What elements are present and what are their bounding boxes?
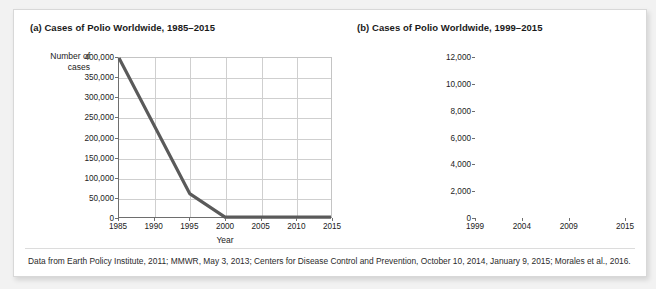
x-tick-mark — [261, 218, 262, 221]
panel-a-y-axis-title-line2: cases — [68, 62, 90, 72]
y-tick-mark — [115, 158, 118, 159]
x-tick-label: 2010 — [287, 222, 305, 231]
y-tick-label: 0 — [411, 214, 471, 223]
x-tick-mark — [475, 218, 476, 221]
y-tick-mark — [115, 77, 118, 78]
x-tick-mark — [332, 218, 333, 221]
x-tick-mark — [225, 218, 226, 221]
y-tick-mark — [472, 111, 475, 112]
x-tick-mark — [118, 218, 119, 221]
x-tick-label: 1999 — [466, 222, 484, 231]
y-tick-mark — [472, 138, 475, 139]
y-tick-label: 200,000 — [54, 133, 114, 142]
y-tick-label: 400,000 — [54, 53, 114, 62]
panel-a-series-svg — [119, 58, 331, 217]
y-tick-label: 8,000 — [411, 106, 471, 115]
panel-b-title: (b) Cases of Polio Worldwide, 1999–2015 — [357, 22, 543, 33]
y-tick-label: 300,000 — [54, 93, 114, 102]
y-tick-label: 350,000 — [54, 73, 114, 82]
panel-a-x-axis-title: Year — [118, 235, 332, 245]
y-tick-label: 100,000 — [54, 173, 114, 182]
y-tick-label: 250,000 — [54, 113, 114, 122]
y-tick-mark — [115, 198, 118, 199]
x-tick-mark — [625, 218, 626, 221]
y-tick-label: 4,000 — [411, 160, 471, 169]
y-tick-label: 12,000 — [411, 53, 471, 62]
figure-card: (a) Cases of Polio Worldwide, 1985–2015 … — [13, 9, 647, 277]
y-tick-label: 50,000 — [54, 193, 114, 202]
panel-a-data-line — [119, 58, 331, 217]
y-tick-label: 150,000 — [54, 153, 114, 162]
y-tick-mark — [472, 57, 475, 58]
x-tick-label: 1990 — [145, 222, 163, 231]
y-tick-mark — [115, 57, 118, 58]
x-tick-mark — [189, 218, 190, 221]
x-tick-label: 2015 — [616, 222, 634, 231]
x-tick-mark — [296, 218, 297, 221]
x-tick-label: 2009 — [560, 222, 578, 231]
x-tick-mark — [522, 218, 523, 221]
y-tick-mark — [115, 97, 118, 98]
x-tick-label: 1995 — [180, 222, 198, 231]
y-tick-mark — [472, 191, 475, 192]
y-tick-label: 0 — [54, 214, 114, 223]
y-tick-label: 2,000 — [411, 187, 471, 196]
source-note: Data from Earth Policy Institute, 2011; … — [28, 256, 634, 267]
y-tick-mark — [115, 117, 118, 118]
x-tick-label: 2004 — [513, 222, 531, 231]
y-tick-mark — [115, 138, 118, 139]
x-tick-label: 1985 — [109, 222, 127, 231]
source-divider — [25, 248, 635, 249]
x-tick-label: 2015 — [323, 222, 341, 231]
chart-panel-b: (b) Cases of Polio Worldwide, 1999–2015 … — [344, 10, 648, 244]
chart-panel-a: (a) Cases of Polio Worldwide, 1985–2015 … — [14, 10, 344, 244]
x-tick-mark — [154, 218, 155, 221]
panel-a-title: (a) Cases of Polio Worldwide, 1985–2015 — [30, 22, 215, 33]
y-tick-label: 10,000 — [411, 79, 471, 88]
y-tick-label: 6,000 — [411, 133, 471, 142]
y-tick-mark — [472, 84, 475, 85]
x-tick-label: 2005 — [252, 222, 270, 231]
y-tick-mark — [472, 164, 475, 165]
x-tick-mark — [569, 218, 570, 221]
x-tick-label: 2000 — [216, 222, 234, 231]
panel-a-plot-area — [118, 57, 332, 218]
y-tick-mark — [115, 178, 118, 179]
